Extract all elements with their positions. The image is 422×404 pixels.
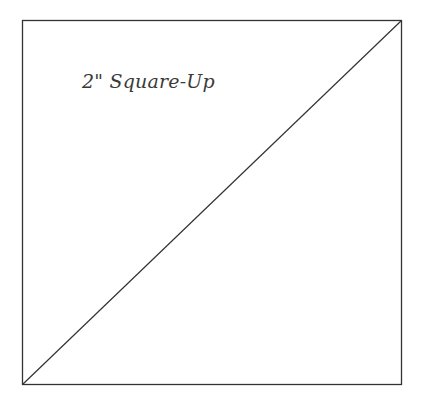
- square-up-diagram: [0, 0, 422, 404]
- square-up-label: 2" Square-Up: [82, 70, 215, 92]
